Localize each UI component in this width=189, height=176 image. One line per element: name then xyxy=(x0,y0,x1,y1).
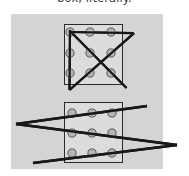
illustration-root: box, literally. xyxy=(0,0,189,176)
nine-dots-figure xyxy=(0,0,189,176)
bottom-panel-group xyxy=(16,103,177,164)
top-line-1-overlay xyxy=(70,32,134,33)
top-panel-group xyxy=(65,25,135,91)
top-line-3-overlay xyxy=(70,30,71,90)
dot xyxy=(68,149,76,157)
